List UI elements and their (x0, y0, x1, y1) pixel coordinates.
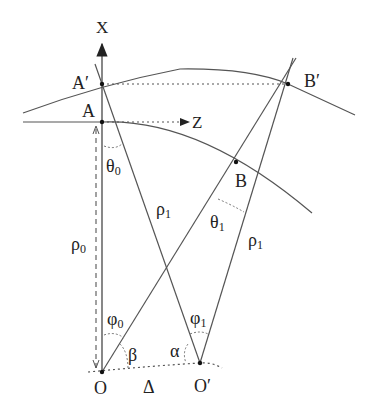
label-theta1: θ1 (210, 212, 225, 234)
point-B (234, 160, 238, 164)
geometry-diagram: X Z A′ A B′ B O O′ θ0 θ1 φ0 φ1 β α ρ0 ρ1… (0, 0, 373, 411)
phi1-arc (190, 332, 208, 334)
phi0-arc (104, 334, 124, 338)
label-O: O (94, 378, 107, 398)
baseline-delta (88, 363, 222, 372)
lower-curve (102, 122, 312, 213)
label-B: B (235, 171, 247, 191)
label-rho1-left: ρ1 (156, 199, 171, 221)
theta1-arc (218, 199, 244, 212)
alpha-arc (184, 344, 188, 363)
label-rho1-right: ρ1 (248, 230, 263, 252)
label-rho0: ρ0 (71, 234, 86, 256)
label-theta0: θ0 (106, 156, 121, 178)
label-beta: β (128, 345, 137, 365)
label-phi1: φ1 (190, 308, 206, 330)
z-arrow-icon (180, 118, 190, 126)
label-A: A (82, 101, 95, 121)
theta0-arc (104, 144, 122, 148)
point-O-prime (198, 361, 202, 365)
point-A-prime (100, 82, 104, 86)
beta-arc (120, 344, 128, 369)
line-O-prime-B-prime (200, 58, 293, 363)
label-A-prime: A′ (72, 73, 89, 93)
label-delta: Δ (143, 377, 155, 397)
label-B-prime: B′ (304, 71, 320, 91)
point-A (100, 120, 104, 124)
label-phi0: φ0 (107, 309, 123, 331)
x-axis-label: X (96, 18, 108, 37)
point-O (100, 370, 104, 374)
label-alpha: α (170, 341, 180, 361)
diagram-canvas: X Z A′ A B′ B O O′ θ0 θ1 φ0 φ1 β α ρ0 ρ1… (0, 0, 373, 411)
label-O-prime: O′ (194, 376, 211, 396)
z-axis-label: Z (192, 113, 202, 132)
point-B-prime (286, 82, 290, 86)
